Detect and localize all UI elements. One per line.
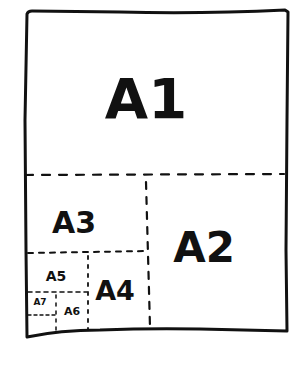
label-a1: A1: [105, 66, 187, 131]
paper-size-diagram: A1 A2 A3 A4 A5 A6 A7: [0, 0, 301, 366]
label-a7: A7: [33, 297, 46, 307]
label-a4: A4: [95, 275, 135, 306]
label-a5: A5: [46, 268, 67, 284]
divider-a3: [28, 251, 148, 253]
divider-a2: [146, 182, 150, 327]
divider-a1: [25, 174, 284, 175]
label-a2: A2: [173, 223, 235, 272]
label-a6: A6: [64, 305, 81, 318]
label-a3: A3: [52, 205, 96, 240]
